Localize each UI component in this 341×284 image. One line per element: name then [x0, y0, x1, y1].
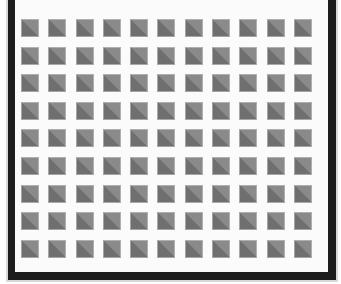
- grid-tile: [294, 102, 312, 120]
- grid-tile: [157, 129, 175, 147]
- grid-tile: [294, 240, 312, 258]
- grid-tile: [103, 212, 121, 230]
- grid-tile: [157, 212, 175, 230]
- grid-tile: [267, 102, 285, 120]
- grid-tile: [76, 102, 94, 120]
- grid-tile: [48, 47, 66, 65]
- grid-tile: [157, 19, 175, 37]
- grid-tile: [130, 240, 148, 258]
- grid-tile: [21, 240, 39, 258]
- grid-tile: [48, 240, 66, 258]
- grid-tile: [185, 185, 203, 203]
- grid-tile: [239, 212, 257, 230]
- grid-tile: [103, 185, 121, 203]
- grid-tile: [21, 157, 39, 175]
- grid-tile: [212, 129, 230, 147]
- grid-tile: [130, 102, 148, 120]
- grid-tile: [294, 157, 312, 175]
- grid-tile: [76, 129, 94, 147]
- grid-tile: [267, 240, 285, 258]
- grid-tile: [48, 74, 66, 92]
- grid-tile: [130, 74, 148, 92]
- grid-tile: [76, 47, 94, 65]
- grid-tile: [48, 185, 66, 203]
- grid-tile: [185, 129, 203, 147]
- frame-bar-left: [8, 0, 15, 279]
- frame-shade-bottom: [6, 280, 338, 282]
- grid-tile: [157, 47, 175, 65]
- grid-tile: [130, 19, 148, 37]
- grid-tile: [239, 102, 257, 120]
- grid-tile: [130, 157, 148, 175]
- grid-tile: [103, 129, 121, 147]
- grid-tile: [294, 19, 312, 37]
- grid-tile: [267, 74, 285, 92]
- grid-tile: [103, 157, 121, 175]
- grid-tile: [76, 157, 94, 175]
- grid-tile: [130, 47, 148, 65]
- grid-tile: [239, 19, 257, 37]
- grid-tile: [267, 19, 285, 37]
- grid-tile: [185, 19, 203, 37]
- panel-frame: [0, 0, 341, 284]
- grid-tile: [103, 240, 121, 258]
- grid-tile: [212, 157, 230, 175]
- grid-tile: [267, 157, 285, 175]
- grid-tile: [212, 74, 230, 92]
- frame-shade-right: [336, 0, 338, 281]
- grid-tile: [212, 185, 230, 203]
- grid-tile: [48, 129, 66, 147]
- grid-tile: [76, 240, 94, 258]
- grid-tile: [239, 240, 257, 258]
- grid-tile: [267, 185, 285, 203]
- grid-tile: [239, 129, 257, 147]
- pattern-canvas: [0, 0, 341, 284]
- grid-tile: [294, 47, 312, 65]
- grid-tile: [294, 74, 312, 92]
- grid-tile: [21, 74, 39, 92]
- grid-tile: [48, 157, 66, 175]
- grid-tile: [212, 19, 230, 37]
- grid-tile: [185, 102, 203, 120]
- grid-tile: [267, 47, 285, 65]
- grid-tile: [212, 240, 230, 258]
- grid-tile: [239, 157, 257, 175]
- grid-tile: [76, 212, 94, 230]
- frame-bar-right: [328, 0, 336, 279]
- grid-tile: [21, 47, 39, 65]
- grid-tile: [212, 47, 230, 65]
- grid-tile: [267, 212, 285, 230]
- grid-tile: [185, 47, 203, 65]
- grid-tile: [21, 129, 39, 147]
- grid-tile: [103, 102, 121, 120]
- grid-tile: [130, 212, 148, 230]
- grid-tile: [185, 212, 203, 230]
- grid-tile: [21, 102, 39, 120]
- grid-tile: [48, 212, 66, 230]
- grid-tile: [48, 19, 66, 37]
- grid-tile: [239, 47, 257, 65]
- grid-tile: [103, 47, 121, 65]
- grid-tile: [103, 74, 121, 92]
- grid-tile: [157, 157, 175, 175]
- grid-tile: [21, 19, 39, 37]
- grid-tile: [76, 74, 94, 92]
- grid-tile: [21, 212, 39, 230]
- grid-tile: [130, 129, 148, 147]
- grid-tile: [185, 74, 203, 92]
- grid-tile: [76, 19, 94, 37]
- grid-tile: [76, 185, 94, 203]
- grid-tile: [48, 102, 66, 120]
- grid-tile: [185, 240, 203, 258]
- grid-tile: [294, 185, 312, 203]
- grid-tile: [212, 212, 230, 230]
- grid-tile: [157, 240, 175, 258]
- grid-tile: [21, 185, 39, 203]
- grid-tile: [239, 74, 257, 92]
- grid-tile: [212, 102, 230, 120]
- grid-tile: [157, 102, 175, 120]
- grid-tile: [130, 185, 148, 203]
- grid-tile: [157, 74, 175, 92]
- grid-tile: [267, 129, 285, 147]
- grid-tile: [157, 185, 175, 203]
